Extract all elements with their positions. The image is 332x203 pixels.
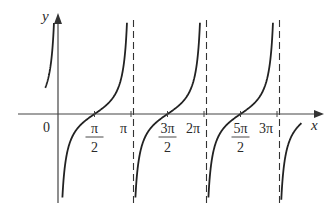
tick-label-numerator: 3π bbox=[160, 121, 174, 136]
asymptote-lines bbox=[134, 20, 280, 203]
axis-labels: y x 0 bbox=[40, 8, 318, 135]
tick-label-denominator: 2 bbox=[164, 140, 171, 155]
x-ticks: π2π3π22π5π23π bbox=[86, 111, 278, 155]
tick-label: 3π bbox=[259, 121, 273, 136]
curve-branch bbox=[208, 23, 273, 198]
tick-label: π bbox=[120, 121, 127, 136]
cotangent-graph: π2π3π22π5π23π y x 0 bbox=[0, 0, 332, 203]
x-axis-label: x bbox=[310, 117, 318, 133]
curve-branch bbox=[62, 23, 127, 198]
tick-label-denominator: 2 bbox=[237, 140, 244, 155]
curve-branches bbox=[45, 23, 301, 200]
tick-label-numerator: 5π bbox=[233, 121, 247, 136]
curve-branch bbox=[135, 23, 200, 198]
tick-label-numerator: π bbox=[91, 121, 98, 136]
curve-branch bbox=[281, 123, 301, 200]
curve-branch bbox=[45, 23, 54, 88]
tick-label-denominator: 2 bbox=[91, 140, 98, 155]
y-axis-arrow-icon bbox=[54, 13, 62, 24]
origin-label: 0 bbox=[43, 120, 50, 135]
y-axis-label: y bbox=[40, 8, 49, 24]
tick-label: 2π bbox=[186, 121, 200, 136]
